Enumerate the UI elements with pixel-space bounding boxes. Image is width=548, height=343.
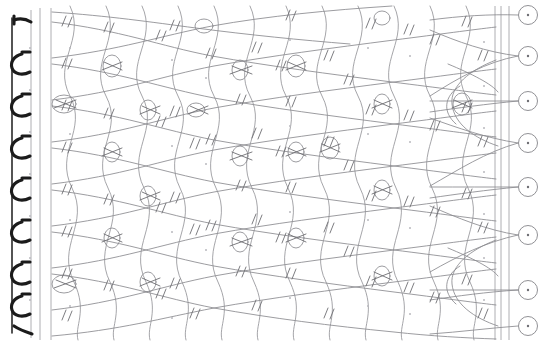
terminal-node[interactable] — [519, 281, 538, 300]
terminal-node[interactable] — [519, 92, 538, 111]
braid-diagram-svg — [0, 0, 548, 343]
terminal-node-group — [519, 6, 538, 336]
faint-dot-group — [29, 39, 485, 319]
eyelet-group — [52, 11, 471, 293]
terminal-node[interactable] — [519, 178, 538, 197]
strand-family-ascending — [52, 6, 496, 336]
binding-spine-group — [11, 16, 32, 334]
terminal-node[interactable] — [519, 317, 538, 336]
terminal-node[interactable] — [519, 226, 538, 245]
strand-family-descending — [52, 12, 496, 339]
node-fan-group — [430, 15, 518, 334]
left-rail-group — [31, 8, 51, 340]
strand-family-sinuous — [65, 6, 477, 340]
terminal-node[interactable] — [519, 47, 538, 66]
terminal-node[interactable] — [519, 134, 538, 153]
braid-diagram-canvas — [0, 0, 548, 343]
terminal-node[interactable] — [519, 6, 538, 25]
